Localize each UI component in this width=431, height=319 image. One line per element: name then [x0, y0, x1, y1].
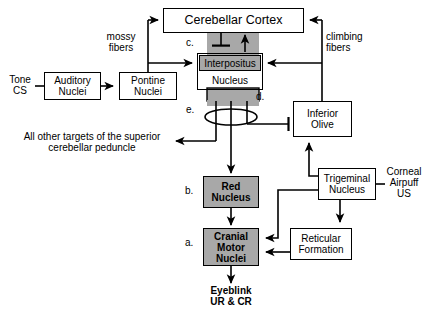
key-marker-a: a.: [185, 237, 193, 248]
key-marker-b: b.: [185, 185, 193, 196]
label-mossy-fibers-line2: fibers: [99, 42, 143, 53]
label-climbing-fibers-line1: climbing: [326, 31, 380, 42]
label-corneal-line3: US: [378, 188, 430, 199]
label-mossy-fibers-line1: mossy: [99, 31, 143, 42]
node-reticular-formation[interactable]: Reticular Formation: [290, 228, 352, 260]
node-label-auditory-line1: Auditory: [54, 75, 91, 86]
node-auditory-nuclei[interactable]: Auditory Nuclei: [44, 72, 101, 100]
label-tone-cs-line1: Tone: [4, 74, 36, 85]
node-label-cerebellar-cortex: Cerebellar Cortex: [185, 15, 283, 26]
node-label-cranial-line2: Motor: [217, 242, 245, 253]
node-label-trigeminal-line2: Nucleus: [329, 184, 365, 195]
key-marker-c: c.: [186, 37, 194, 48]
label-corneal-line1: Corneal: [378, 166, 430, 177]
node-label-reticular-line1: Reticular: [301, 233, 340, 244]
label-other-targets-line1: All other targets of the superior: [8, 131, 176, 142]
label-tone-cs-line2: CS: [4, 85, 36, 96]
node-label-nucleus: Nucleus: [212, 75, 248, 86]
label-eyeblink-line2: UR & CR: [198, 296, 264, 307]
node-label-trigeminal-line1: Trigeminal: [324, 173, 370, 184]
node-interpositus-title-strip[interactable]: Interpositus: [199, 55, 261, 71]
line-trigeminal-to-olive: [309, 143, 318, 176]
node-label-inferior-olive-line2: Olive: [311, 119, 334, 130]
node-pontine-nuclei[interactable]: Pontine Nuclei: [119, 72, 177, 100]
node-label-pontine-line2: Nuclei: [134, 86, 162, 97]
circuit-diagram: Cerebellar Cortex Interpositus Nucleus A…: [0, 0, 431, 319]
node-cranial-motor-nuclei[interactable]: Cranial Motor Nuclei: [203, 228, 259, 266]
node-red-nucleus[interactable]: Red Nucleus: [203, 176, 259, 208]
node-label-reticular-line2: Formation: [298, 244, 343, 255]
node-label-pontine-line1: Pontine: [131, 75, 165, 86]
label-climbing-fibers: climbing fibers: [326, 31, 380, 53]
shaded-band-efferent-tail: [207, 100, 259, 106]
node-label-cranial-line3: Nuclei: [216, 253, 246, 264]
node-label-auditory-line2: Nuclei: [59, 86, 87, 97]
label-eyeblink-line1: Eyeblink: [198, 285, 264, 296]
node-label-inferior-olive-line1: Inferior: [307, 108, 338, 119]
node-cerebellar-cortex[interactable]: Cerebellar Cortex: [163, 8, 304, 33]
label-eyeblink-output: Eyeblink UR & CR: [198, 285, 264, 307]
key-marker-d: d.: [256, 91, 264, 102]
node-label-red-nucleus-line1: Red: [222, 181, 241, 192]
label-corneal-line2: Airpuff: [378, 177, 430, 188]
node-inferior-olive[interactable]: Inferior Olive: [293, 101, 352, 137]
label-climbing-fibers-line2: fibers: [326, 42, 380, 53]
label-other-targets: All other targets of the superior cerebe…: [8, 131, 176, 153]
node-label-red-nucleus-line2: Nucleus: [212, 192, 251, 203]
node-label-cranial-line1: Cranial: [214, 231, 248, 242]
label-mossy-fibers: mossy fibers: [99, 31, 143, 53]
node-interpositus-subtitle: Nucleus: [199, 72, 261, 88]
label-other-targets-line2: cerebellar peduncle: [8, 142, 176, 153]
label-tone-cs: Tone CS: [4, 74, 36, 96]
node-trigeminal-nucleus[interactable]: Trigeminal Nucleus: [318, 168, 376, 200]
node-label-interpositus: Interpositus: [204, 58, 256, 69]
label-corneal-airpuff-us: Corneal Airpuff US: [378, 166, 430, 199]
key-marker-e: e.: [186, 104, 194, 115]
